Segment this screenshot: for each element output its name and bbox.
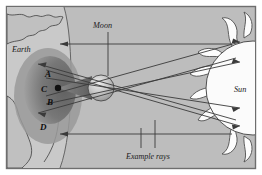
observer-dot — [55, 85, 61, 91]
earth-label: Earth — [11, 45, 31, 54]
sun-label: Sun — [234, 85, 246, 94]
moon-label: Moon — [92, 21, 112, 30]
shadow-point-label-c: C — [41, 84, 48, 94]
eclipse-diagram-figure: Earth Moon Sun Example rays A C B D — [0, 0, 262, 175]
shadow-point-label-a: A — [44, 69, 51, 79]
example-rays-label: Example rays — [125, 152, 170, 161]
shadow-point-label-b: B — [46, 97, 53, 107]
diagram-canvas: Earth Moon Sun Example rays A C B D — [0, 0, 262, 175]
shadow-point-label-d: D — [39, 122, 47, 132]
